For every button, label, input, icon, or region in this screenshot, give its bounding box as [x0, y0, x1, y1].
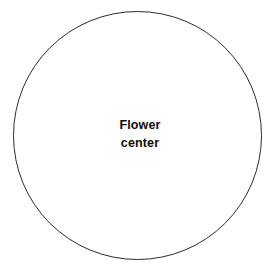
diagram-canvas: Flower center [0, 0, 276, 275]
flower-center-circle [13, 11, 262, 260]
